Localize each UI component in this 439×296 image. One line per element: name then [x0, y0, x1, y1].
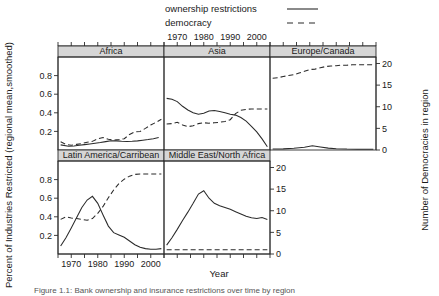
right-axis-tick-label: 0	[276, 249, 281, 259]
chart-svg: ownership restrictionsdemocracy197019801…	[0, 0, 439, 296]
series-democracy	[273, 65, 374, 78]
right-axis-tick-label: 10	[276, 206, 286, 216]
left-axis-tick-label: 0.6	[39, 193, 52, 203]
left-axis-tick-label: 0.6	[39, 89, 52, 99]
top-axis-tick-label: 1990	[220, 32, 240, 42]
y-axis-right-title: Number of Democracies in region	[419, 89, 430, 231]
legend-label-ownership-restrictions: ownership restrictions	[165, 3, 257, 14]
right-axis-tick-label: 15	[382, 80, 392, 90]
series-democracy	[61, 174, 162, 220]
panel-strip-label: Latin America/Carribean	[63, 150, 160, 160]
panel-strip-label: Europe/Canada	[291, 46, 354, 56]
bottom-axis-tick-label: 1970	[61, 259, 81, 269]
series-democracy	[61, 119, 162, 145]
left-axis-tick-label: 0.8	[39, 175, 52, 185]
series-ownership-restrictions	[61, 137, 159, 146]
panel-asia: Asia	[164, 46, 270, 150]
panel-strip-label: Asia	[208, 46, 226, 56]
panel-strip-label: Africa	[99, 46, 122, 56]
legend-label-democracy: democracy	[165, 17, 212, 28]
right-axis-tick-label: 5	[276, 228, 281, 238]
series-ownership-restrictions	[273, 146, 374, 149]
panel-middle-east-north-africa: Middle East/North Africa	[164, 150, 270, 254]
right-axis-tick-label: 0	[382, 145, 387, 155]
series-ownership-restrictions	[61, 196, 162, 249]
right-axis-tick-label: 5	[382, 124, 387, 134]
panel-strip-label: Middle East/North Africa	[169, 150, 266, 160]
bottom-axis-tick-label: 1990	[114, 259, 134, 269]
series-democracy	[167, 109, 268, 127]
right-axis-tick-label: 20	[276, 163, 286, 173]
figure-caption: Figure 1.1: Bank ownership and insurance…	[34, 286, 295, 295]
panel-europe-canada: Europe/Canada	[270, 46, 376, 150]
panel-frame	[270, 57, 376, 150]
panel-frame	[58, 57, 164, 150]
left-axis-tick-label: 0.4	[39, 212, 52, 222]
panel-frame	[164, 161, 270, 254]
left-axis-tick-label: 0.4	[39, 108, 52, 118]
left-axis-tick-label: 0.2	[39, 231, 52, 241]
panel-latin-america-carribean: Latin America/Carribean	[58, 150, 164, 254]
y-axis-left-title: Percent of Industries Restricted (region…	[3, 42, 14, 288]
right-axis-tick-label: 15	[276, 184, 286, 194]
top-axis-tick-label: 1970	[167, 32, 187, 42]
series-ownership-restrictions	[167, 191, 268, 245]
bottom-axis-tick-label: 2000	[141, 259, 161, 269]
left-axis-tick-label: 0.2	[39, 127, 52, 137]
panel-frame	[58, 161, 164, 254]
right-axis-tick-label: 20	[382, 59, 392, 69]
figure-panel-chart: ownership restrictionsdemocracy197019801…	[0, 0, 439, 296]
right-axis-tick-label: 10	[382, 102, 392, 112]
x-axis-title: Year	[209, 268, 228, 279]
panel-africa: Africa	[58, 46, 164, 150]
left-axis-tick-label: 0.8	[39, 71, 52, 81]
top-axis-tick-label: 2000	[247, 32, 267, 42]
bottom-axis-tick-label: 1980	[88, 259, 108, 269]
top-axis-tick-label: 1980	[194, 32, 214, 42]
